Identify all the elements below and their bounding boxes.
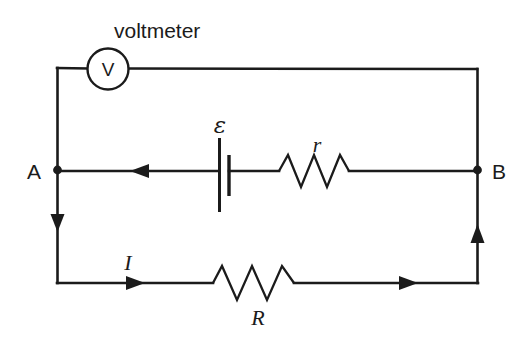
top-wire-right-stub: [128, 69, 477, 70]
load-branch: [57, 266, 478, 300]
load-resistance-label: R: [250, 305, 265, 330]
load-resistor-R-zigzag-icon: [213, 266, 294, 300]
internal-resistance-label: r: [313, 132, 322, 157]
load-branch-current-arrow-right-2-icon: [399, 276, 418, 290]
left-vertical-wire-group: [51, 68, 65, 283]
node-a-label: A: [27, 160, 41, 183]
left-wire-current-arrow-down-icon: [51, 214, 65, 232]
emf-branch: [57, 138, 478, 212]
right-wire-current-arrow-up-icon: [471, 224, 485, 243]
emf-label: ε: [214, 112, 226, 138]
top-wire-left-stub: [57, 68, 88, 69]
voltmeter-caption-label: voltmeter: [114, 19, 200, 42]
voltmeter-symbol-label: V: [102, 59, 115, 80]
node-b-junction-dot: [473, 166, 482, 175]
emf-branch-current-arrow-left-icon: [130, 164, 149, 178]
node-b-label: B: [492, 160, 506, 183]
circuit-diagram-canvas: V: [0, 0, 526, 343]
right-vertical-wire-group: [471, 69, 485, 283]
voltmeter-branch: V: [57, 49, 477, 90]
current-label: I: [123, 250, 133, 275]
circuit-svg-root: V: [0, 0, 526, 343]
node-a-junction-dot: [53, 166, 62, 175]
load-branch-current-arrow-right-icon: [126, 276, 145, 290]
internal-resistor-r-zigzag-icon: [279, 155, 349, 187]
